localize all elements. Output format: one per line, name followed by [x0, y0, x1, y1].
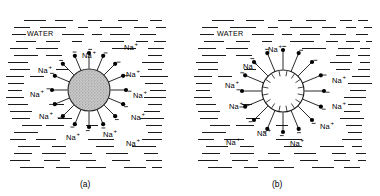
charge-dot — [281, 48, 285, 52]
charge-dot — [240, 89, 244, 93]
charge-spoke — [104, 64, 115, 75]
colloid-particle-filled — [34, 35, 144, 145]
charge-dot — [297, 127, 301, 131]
charge-dot — [252, 118, 256, 122]
particle-body — [68, 69, 110, 111]
charge-spoke — [291, 53, 298, 71]
charge-dot — [101, 54, 105, 58]
charge-dot — [297, 51, 301, 55]
charge-spoke — [298, 62, 312, 76]
charge-dot — [319, 73, 323, 77]
charge-dot — [61, 114, 65, 118]
charge-spoke — [109, 76, 123, 82]
charge-dot — [113, 62, 117, 66]
figure-root: WATER WATER Na+Na+Na+Na+Na+Na+Na+Na+Na+N… — [0, 0, 380, 196]
charge-spoke — [75, 110, 81, 124]
charge-spoke — [267, 111, 274, 129]
charge-dot — [121, 102, 125, 106]
charge-spoke — [97, 56, 103, 70]
charge-spoke — [55, 98, 69, 104]
charge-spoke — [109, 98, 123, 104]
charge-dot — [87, 51, 91, 55]
charge-dot — [50, 88, 54, 92]
charge-spoke — [55, 76, 69, 82]
charge-spoke — [303, 75, 321, 82]
charge-spoke — [75, 56, 81, 70]
ion-charge-sign: + — [343, 74, 347, 80]
panel-caption-b: (b) — [272, 180, 282, 189]
charge-dot — [101, 122, 105, 126]
colloid-particle-hollow — [224, 32, 342, 150]
charge-spoke — [267, 53, 274, 71]
charge-spoke — [245, 75, 263, 82]
charge-dot — [319, 105, 323, 109]
charge-spoke — [254, 106, 268, 120]
charge-spoke — [298, 106, 312, 120]
charge-dot — [281, 130, 285, 134]
charge-dot — [243, 73, 247, 77]
charge-spoke — [303, 99, 321, 106]
charge-dot — [87, 125, 91, 129]
charge-dot — [73, 122, 77, 126]
charge-dot — [265, 127, 269, 131]
charge-dot — [61, 62, 65, 66]
charge-dot — [124, 88, 128, 92]
ion-charge-sign: + — [343, 100, 347, 106]
charge-dot — [265, 51, 269, 55]
charge-spoke — [245, 99, 263, 106]
charge-spoke — [254, 62, 268, 76]
charge-dot — [252, 60, 256, 64]
charge-dot — [310, 60, 314, 64]
particle-body — [262, 70, 304, 112]
charge-dot — [243, 105, 247, 109]
charge-spoke — [63, 105, 74, 116]
charge-dot — [113, 114, 117, 118]
charge-dot — [121, 74, 125, 78]
charge-spoke — [63, 64, 74, 75]
charge-dot — [53, 102, 57, 106]
charge-spoke — [104, 105, 115, 116]
charge-dot — [310, 118, 314, 122]
charge-spoke — [97, 110, 103, 124]
panel-caption-a: (a) — [80, 180, 90, 189]
charge-dot — [322, 89, 326, 93]
charge-spoke — [291, 111, 298, 129]
charge-dot — [53, 74, 57, 78]
charge-dot — [73, 54, 77, 58]
